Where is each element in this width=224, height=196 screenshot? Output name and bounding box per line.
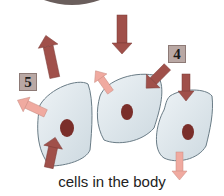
diagram-canvas bbox=[0, 0, 224, 196]
arrow-down-top bbox=[112, 15, 132, 54]
caption: cells in the body bbox=[0, 173, 224, 190]
top-organ-shape bbox=[44, 0, 100, 5]
nucleus bbox=[121, 104, 133, 120]
cell-left bbox=[38, 82, 92, 166]
nucleus bbox=[60, 119, 74, 137]
label-5: 5 bbox=[19, 73, 37, 91]
nucleus bbox=[182, 124, 194, 140]
cell-right bbox=[156, 90, 212, 161]
label-4: 4 bbox=[168, 45, 186, 63]
arrow-up-left bbox=[36, 33, 65, 79]
